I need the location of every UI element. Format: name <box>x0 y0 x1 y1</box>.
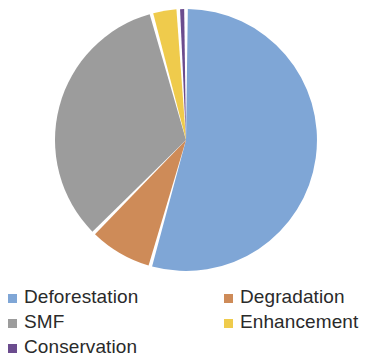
legend-item-empty <box>224 336 370 345</box>
legend-swatch-icon <box>224 294 233 303</box>
legend-item-label: SMF <box>24 311 64 333</box>
legend-item-enhancement[interactable]: Enhancement <box>224 311 370 333</box>
legend-swatch-icon <box>8 344 17 353</box>
legend-item-conservation[interactable]: Conservation <box>8 336 224 358</box>
legend-item-label: Deforestation <box>24 286 138 308</box>
legend-row: SMF Enhancement <box>8 311 370 336</box>
legend-item-label: Conservation <box>24 336 137 358</box>
legend-swatch-icon <box>8 294 17 303</box>
chart-legend: Deforestation Degradation SMF Enhancemen… <box>0 286 374 360</box>
legend-item-label: Degradation <box>240 286 345 308</box>
legend-item-deforestation[interactable]: Deforestation <box>8 286 224 308</box>
legend-row: Deforestation Degradation <box>8 286 370 311</box>
legend-item-smf[interactable]: SMF <box>8 311 224 333</box>
pie-chart-plot-area <box>0 0 374 282</box>
legend-swatch-icon <box>8 319 17 328</box>
legend-swatch-icon <box>224 319 233 328</box>
pie-slice-group <box>55 9 317 271</box>
pie-chart-figure: Deforestation Degradation SMF Enhancemen… <box>0 0 374 360</box>
legend-row: Conservation <box>8 336 370 360</box>
legend-item-label: Enhancement <box>240 311 358 333</box>
pie-chart-svg <box>0 0 374 282</box>
legend-item-degradation[interactable]: Degradation <box>224 286 370 308</box>
